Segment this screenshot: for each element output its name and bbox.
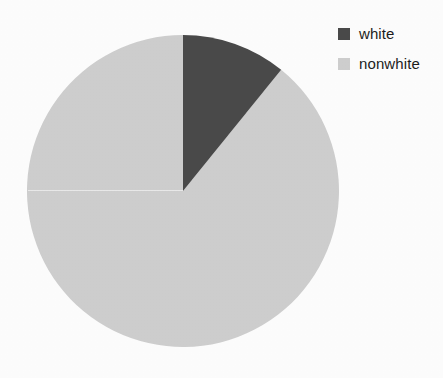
legend-swatch-nonwhite-icon [338, 58, 350, 70]
chart-legend: white nonwhite [338, 26, 420, 72]
legend-item-white[interactable]: white [338, 26, 420, 42]
legend-item-nonwhite[interactable]: nonwhite [338, 56, 420, 72]
pie-svg [0, 0, 340, 378]
pie-plot-area [0, 0, 340, 378]
legend-label-white: white [359, 26, 395, 42]
pie-chart-figure: white nonwhite [0, 0, 443, 378]
legend-label-nonwhite: nonwhite [359, 56, 420, 72]
legend-swatch-white-icon [338, 28, 350, 40]
